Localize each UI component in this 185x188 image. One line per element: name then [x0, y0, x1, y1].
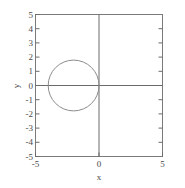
y-tick-label-2: 2 [29, 53, 34, 62]
x-tick-label-0: 0 [97, 160, 102, 169]
x-tick-label-5: 5 [160, 160, 165, 169]
y-tick-label-neg4: -4 [26, 138, 34, 147]
y-tick-label-neg2: -2 [26, 109, 34, 118]
y-axis-title: y [12, 83, 21, 88]
x-axis-title: x [97, 173, 102, 182]
x-tick-label-neg5: -5 [32, 160, 40, 169]
y-tick-label-4: 4 [29, 24, 34, 33]
y-tick-label-0: 0 [29, 81, 34, 90]
y-tick-label-neg3: -3 [26, 124, 34, 133]
y-tick-label-neg1: -1 [26, 95, 34, 104]
y-tick-label-1: 1 [29, 67, 34, 76]
y-tick-label-5: 5 [29, 10, 34, 19]
y-tick-label-3: 3 [29, 38, 34, 47]
chart-screenshot: 5 4 3 2 1 0 -1 -2 -3 -4 -5 -5 0 5 x y [0, 0, 185, 188]
